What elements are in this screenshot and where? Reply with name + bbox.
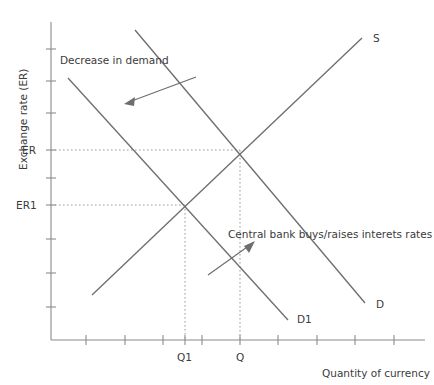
- demand-curve-label: D: [376, 299, 384, 310]
- supply-curve-label: S: [373, 33, 380, 44]
- exchange-rate-diagram: Exchange rate (ER) Quantity of currency …: [0, 0, 434, 385]
- demand-shifted-curve-label: D1: [297, 314, 312, 325]
- x-axis-title: Quantity of currency: [322, 368, 430, 379]
- supply-curve: [92, 38, 362, 295]
- decrease-in-demand-arrow: [124, 77, 196, 106]
- x-tick-label-q: Q: [236, 352, 244, 363]
- demand-curve: [135, 30, 365, 303]
- y-tick-label-er: ER: [22, 145, 36, 156]
- central-bank-arrow: [208, 241, 255, 275]
- annotation-decrease-in-demand: Decrease in demand: [60, 55, 169, 66]
- x-tick-label-q1: Q1: [177, 352, 192, 363]
- demand-shifted-curve: [68, 78, 288, 320]
- y-tick-label-er1: ER1: [16, 200, 37, 211]
- annotation-central-bank: Central bank buys/raises interets rates: [228, 229, 432, 240]
